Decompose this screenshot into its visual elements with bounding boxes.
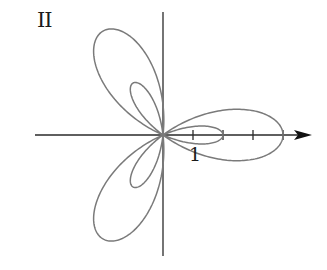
tick-label-one: 1: [189, 143, 201, 165]
polar-graph: [0, 0, 327, 270]
panel-label: II: [37, 8, 52, 32]
